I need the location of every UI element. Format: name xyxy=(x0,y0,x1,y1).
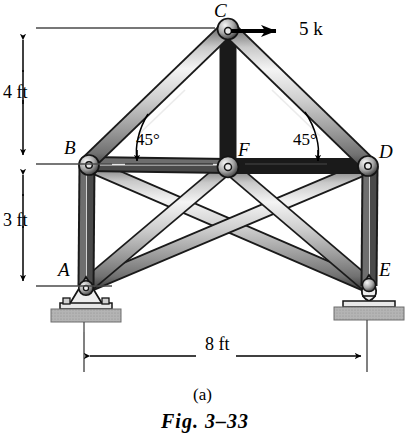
dimension-label-4ft: 4 ft xyxy=(3,82,28,103)
joint-label-C: C xyxy=(214,0,227,22)
figure-caption: Fig. 3–33 xyxy=(161,410,249,433)
member-FA xyxy=(86,166,228,286)
joint-pin-F xyxy=(218,157,239,178)
figure-truss-diagram: C B F D A E 5 k 45° 45° 4 ft 3 ft 8 ft (… xyxy=(0,0,408,439)
joint-pin-D xyxy=(358,156,378,176)
load-label-5k: 5 k xyxy=(299,18,323,40)
angle-label-right: 45° xyxy=(293,130,317,150)
joint-label-B: B xyxy=(64,137,76,159)
member-BA xyxy=(86,164,87,286)
dimension-label-8ft: 8 ft xyxy=(200,334,235,355)
subfigure-label: (a) xyxy=(193,385,212,405)
dimension-label-3ft: 3 ft xyxy=(3,210,28,231)
angle-label-left: 45° xyxy=(136,130,160,150)
joint-label-D: D xyxy=(379,141,393,163)
joint-label-F: F xyxy=(238,139,250,161)
truss-drawing-canvas xyxy=(0,0,408,439)
joint-pin-B xyxy=(79,155,99,175)
joint-label-A: A xyxy=(58,259,70,281)
member-DE xyxy=(369,166,370,286)
joint-label-E: E xyxy=(379,259,391,281)
